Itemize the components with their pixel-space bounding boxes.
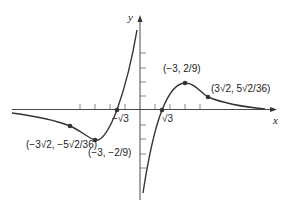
left-inflection-label: (−3√2, −5√2/36): [26, 140, 97, 150]
key-points: [68, 81, 211, 143]
x-axis-label: x: [273, 115, 278, 126]
neg-root-label: −√3: [112, 114, 129, 124]
local-min-label: (−3, −2/9): [88, 148, 131, 158]
neg-root-point: [115, 108, 120, 113]
local-max-point: [183, 81, 188, 86]
axes: [12, 15, 277, 200]
curve-right-branch: [143, 83, 265, 193]
graph-canvas: [0, 0, 285, 211]
local-max-label: (−3, 2/9): [163, 64, 201, 74]
right-inflection-point: [206, 95, 211, 100]
left-inflection-point: [68, 124, 73, 129]
y-axis-label: y: [128, 12, 133, 23]
y-ticks: [140, 53, 146, 168]
y-axis-arrow-icon: [138, 15, 143, 22]
x-axis-arrow-icon: [270, 107, 277, 112]
pos-root-label: √3: [162, 114, 173, 124]
pos-root-point: [160, 108, 165, 113]
right-inflection-label: (3√2, 5√2/36): [211, 84, 270, 94]
